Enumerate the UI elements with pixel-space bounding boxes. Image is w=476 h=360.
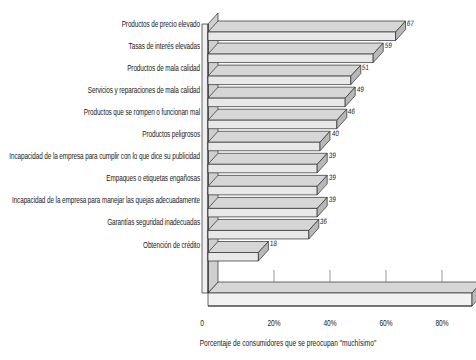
bar-chart: Productos de precio elevadoTasas de inte…: [0, 0, 476, 360]
bar-value-label: 39: [328, 172, 336, 181]
x-tick-label: 60%: [366, 318, 406, 327]
x-tick-label: 80%: [422, 318, 462, 327]
bar-value-label: 59: [384, 40, 392, 49]
bar-value-label: 36: [320, 216, 328, 225]
x-tick-label: 40%: [310, 318, 350, 327]
bar-value-label: 49: [356, 84, 364, 93]
x-tick-label: 0: [182, 318, 222, 327]
bar-value-label: 39: [328, 150, 336, 159]
bar-value-label: 40: [331, 128, 339, 137]
bar-value-label: 51: [362, 62, 370, 71]
x-axis-caption: Porcentaje de consumidores que se preocu…: [118, 338, 458, 347]
bar-value-label: 18: [270, 238, 278, 247]
bar-value-label: 39: [328, 194, 336, 203]
x-tick-label: 20%: [254, 318, 294, 327]
chart-plot-area: [0, 0, 476, 360]
bar-value-label: 67: [407, 18, 415, 27]
bar-value-label: 46: [348, 106, 356, 115]
